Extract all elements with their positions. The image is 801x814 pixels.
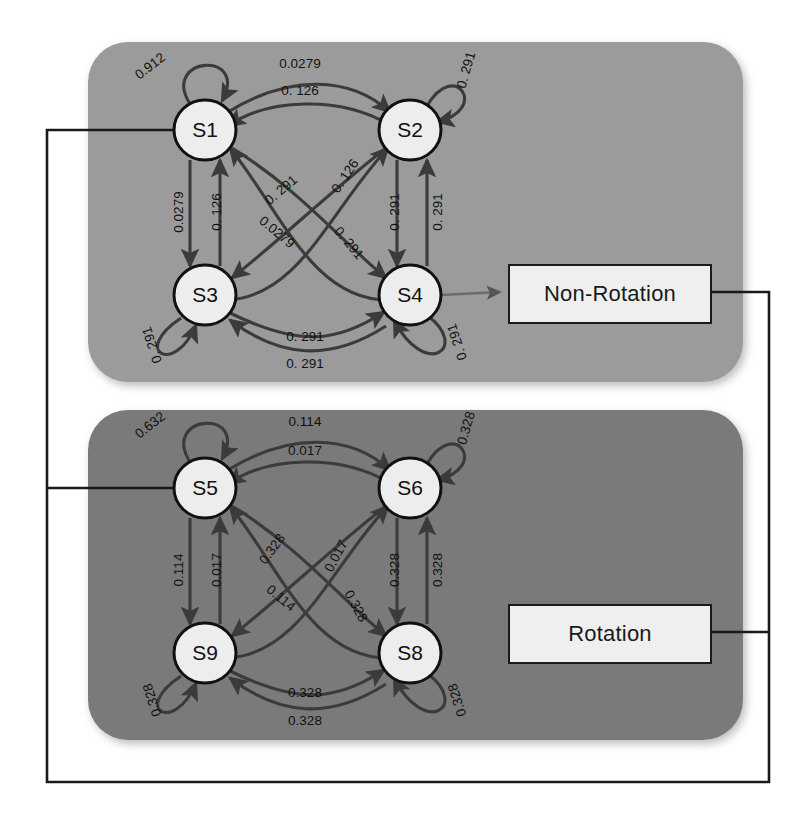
state-node-label: S5 (192, 476, 218, 499)
state-node-s2[interactable]: S2 (379, 100, 441, 160)
state-node-label: S3 (192, 283, 218, 306)
non-rotation-box-label: Non-Rotation (544, 281, 676, 307)
state-node-label: S8 (397, 641, 423, 664)
state-node-s8[interactable]: S8 (379, 623, 441, 683)
state-node-s4[interactable]: S4 (379, 265, 441, 325)
state-diagram-svg: S1S2S3S4S5S6S9S8 (0, 0, 801, 814)
state-node-label: S6 (397, 476, 423, 499)
non-rotation-box[interactable]: Non-Rotation (508, 264, 712, 324)
state-node-label: S1 (192, 118, 218, 141)
rotation-box[interactable]: Rotation (508, 604, 712, 664)
rotation-box-label: Rotation (568, 621, 652, 647)
diagram-canvas: S1S2S3S4S5S6S9S8 Non-Rotation Rotation 0… (0, 0, 801, 814)
state-node-label: S9 (192, 641, 218, 664)
state-node-s1[interactable]: S1 (174, 100, 236, 160)
state-node-label: S4 (397, 283, 423, 306)
state-node-label: S2 (397, 118, 423, 141)
state-node-s9[interactable]: S9 (174, 623, 236, 683)
state-node-s5[interactable]: S5 (174, 458, 236, 518)
state-node-s6[interactable]: S6 (379, 458, 441, 518)
state-node-s3[interactable]: S3 (174, 265, 236, 325)
